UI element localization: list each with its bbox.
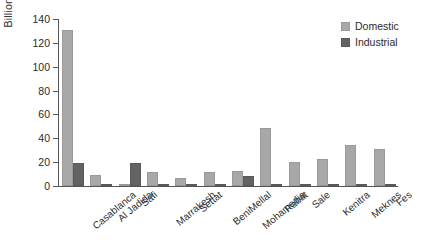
bar-domestic bbox=[317, 159, 328, 186]
bar-group bbox=[119, 163, 141, 186]
bar-domestic bbox=[147, 172, 158, 186]
legend-item-industrial: Industrial bbox=[341, 36, 399, 48]
bar-group bbox=[90, 175, 112, 186]
y-tick-label: 120 bbox=[32, 37, 50, 49]
bar-group bbox=[175, 178, 197, 186]
bar-group bbox=[374, 149, 396, 186]
bar-group bbox=[260, 128, 282, 186]
bar-industrial bbox=[300, 184, 311, 186]
bar-domestic bbox=[204, 172, 215, 186]
bar-industrial bbox=[73, 163, 84, 186]
y-tick-label: 40 bbox=[38, 132, 50, 144]
bar-industrial bbox=[101, 184, 112, 186]
bar-group bbox=[289, 162, 311, 186]
bar-industrial bbox=[186, 184, 197, 186]
bar-industrial bbox=[271, 184, 282, 186]
bar-industrial bbox=[385, 184, 396, 186]
y-tick-label: 80 bbox=[38, 85, 50, 97]
x-axis-line bbox=[58, 186, 398, 187]
bar-group bbox=[345, 145, 367, 186]
bar-industrial bbox=[158, 184, 169, 186]
bar-group bbox=[147, 172, 169, 186]
x-axis-label: Sale bbox=[309, 189, 331, 210]
bar-domestic bbox=[119, 184, 130, 186]
chart-legend: Domestic Industrial bbox=[341, 20, 399, 52]
x-axis-label: Rabat bbox=[283, 189, 311, 215]
bar-domestic bbox=[374, 149, 385, 186]
y-tick-label: 60 bbox=[38, 108, 50, 120]
y-tick-label: 100 bbox=[32, 61, 50, 73]
legend-swatch-industrial bbox=[341, 38, 350, 47]
bar-industrial bbox=[243, 176, 254, 186]
bar-industrial bbox=[356, 184, 367, 186]
bar-chart: Billion Cubic Meters 020406080100120140 … bbox=[0, 0, 428, 246]
x-axis-label: Settat bbox=[197, 189, 224, 214]
bar-domestic bbox=[260, 128, 271, 186]
bar-domestic bbox=[345, 145, 356, 186]
y-tick-label: 0 bbox=[44, 180, 50, 192]
bar-domestic bbox=[289, 162, 300, 186]
legend-item-domestic: Domestic bbox=[341, 20, 399, 32]
bar-group bbox=[204, 172, 226, 186]
x-axis-labels: CasablancaAl JadidaSafiMarrakeshSettatBe… bbox=[58, 189, 398, 245]
bar-domestic bbox=[232, 171, 243, 187]
bar-group bbox=[62, 30, 84, 186]
y-tick-label: 20 bbox=[38, 156, 50, 168]
bar-domestic bbox=[90, 175, 101, 186]
y-tick-mark bbox=[53, 186, 58, 187]
bar-industrial bbox=[215, 184, 226, 186]
x-axis-label: Kenitra bbox=[340, 189, 371, 218]
bar-industrial bbox=[130, 163, 141, 186]
bar-group bbox=[232, 171, 254, 187]
y-axis-title: Billion Cubic Meters bbox=[2, 0, 14, 38]
legend-label-domestic: Domestic bbox=[355, 20, 399, 32]
bar-industrial bbox=[328, 184, 339, 186]
bar-domestic bbox=[62, 30, 73, 186]
legend-label-industrial: Industrial bbox=[355, 36, 398, 48]
bar-domestic bbox=[175, 178, 186, 186]
legend-swatch-domestic bbox=[341, 22, 350, 31]
bar-group bbox=[317, 159, 339, 186]
y-tick-label: 140 bbox=[32, 13, 50, 25]
